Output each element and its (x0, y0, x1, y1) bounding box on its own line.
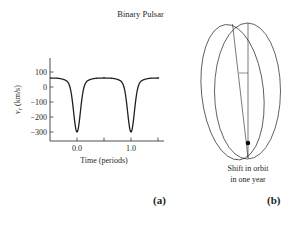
y-axis-label: vr (km/s) (13, 85, 23, 114)
y-tick-label: −100 (30, 98, 47, 107)
panel-b-label: (b) (267, 194, 280, 206)
y-tick-label: −200 (30, 113, 47, 122)
orbit-ellipse-initial (195, 21, 271, 163)
major-axis-initial (233, 24, 249, 158)
x-ticks: 0.01.0 (72, 138, 158, 154)
y-tick-label: −300 (30, 128, 47, 137)
orbit-caption: Shift in orbit in one year (208, 163, 288, 185)
x-axis-label: Time (periods) (80, 156, 128, 165)
orbit-diagram-panel-b (195, 21, 281, 163)
focus-dot (246, 141, 250, 145)
y-tick-label: 0 (43, 83, 47, 92)
x-tick-label: 0.0 (72, 144, 82, 153)
y-tick-label: 100 (35, 68, 47, 77)
chart-panel-a: 1000−100−200−300 0.01.0 vr (km/s) Time (… (13, 58, 164, 165)
velocity-curve (50, 78, 159, 132)
panel-a-label: (a) (153, 194, 166, 206)
caption-line-2: in one year (208, 174, 288, 185)
orbit-ellipse-shifted (215, 23, 281, 159)
caption-line-1: Shift in orbit (208, 163, 288, 174)
x-tick-label: 1.0 (126, 144, 136, 153)
